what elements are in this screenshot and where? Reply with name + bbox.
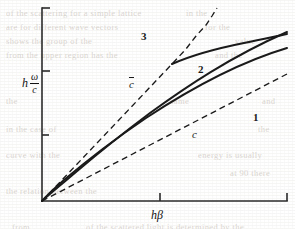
curve-label-2: 2 <box>198 63 204 75</box>
y-axis-label-prefix: h <box>22 76 28 91</box>
curve-label-3: 3 <box>141 30 147 42</box>
asymptote-label-cbar-glyph: c <box>129 78 134 90</box>
dispersion-branch-3 <box>172 34 287 64</box>
overbar <box>129 77 134 78</box>
curve-label-1: 1 <box>253 111 259 123</box>
y-axis-label-denominator: c <box>31 85 37 95</box>
asymptote-label-c: c <box>192 128 197 140</box>
dispersion-branch-2 <box>42 48 287 201</box>
y-axis-label-fraction: ω c <box>30 72 39 95</box>
axes-group <box>42 8 287 201</box>
branches-group <box>42 32 287 201</box>
x-axis-label: hβ <box>151 208 163 223</box>
asymptote-c-dashed <box>42 74 287 201</box>
dispersion-branch-1 <box>42 32 287 201</box>
asymptote-cbar-dashed <box>42 8 217 201</box>
asymptotes-group <box>42 8 287 201</box>
asymptote-label-cbar: c <box>129 78 134 90</box>
dispersion-plot <box>0 0 295 229</box>
y-axis-label-numerator: ω <box>30 72 39 82</box>
y-axis-label: h ω c <box>22 72 39 95</box>
